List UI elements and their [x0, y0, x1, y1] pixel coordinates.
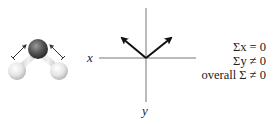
bond-dipole-arrow-right: [50, 45, 65, 60]
vector-arrow-up-right: [146, 38, 171, 58]
hydrogen-atom-right: [50, 62, 68, 80]
x-axis-label: x: [87, 51, 93, 64]
oxygen-atom: [28, 39, 48, 59]
equation-sum-y: Σy ≠ 0: [202, 54, 266, 68]
hydrogen-atom-left: [8, 62, 26, 80]
bond-dipole-arrow-left: [11, 45, 26, 60]
y-axis-label: y: [142, 104, 148, 117]
sum-equations: Σx = 0 Σy ≠ 0 overall Σ ≠ 0: [202, 40, 266, 82]
vector-arrow-up-left: [122, 38, 146, 58]
water-molecule-model: [8, 39, 68, 80]
equation-overall: overall Σ ≠ 0: [202, 68, 266, 82]
equation-sum-x: Σx = 0: [202, 40, 266, 54]
